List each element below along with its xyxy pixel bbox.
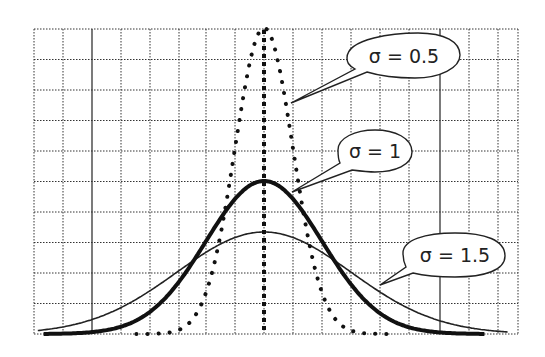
normal-distribution-chart: σ = 0.5 σ = 1 σ = 1.5 <box>0 0 545 357</box>
grid <box>34 29 518 334</box>
callout-label-sigma-0-5: σ = 0.5 <box>369 45 439 67</box>
callout-sigma-1-5: σ = 1.5 <box>380 233 505 285</box>
callout-sigma-1: σ = 1 <box>292 130 412 192</box>
callout-label-sigma-1: σ = 1 <box>349 140 401 162</box>
callout-sigma-0-5: σ = 0.5 <box>291 33 460 103</box>
callout-label-sigma-1-5: σ = 1.5 <box>420 244 490 266</box>
